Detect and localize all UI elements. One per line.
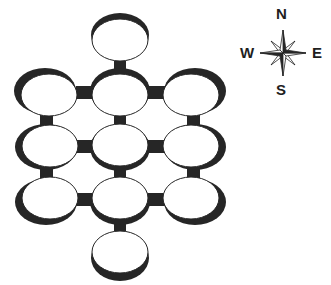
ring-grid-diagram — [0, 0, 331, 285]
rings — [14, 13, 226, 281]
ring-south — [91, 231, 149, 281]
ring-row2-col2 — [90, 124, 150, 171]
ring-row2-col1 — [15, 124, 78, 170]
compass-north-label: N — [276, 6, 287, 21]
ring-row1-col2 — [90, 68, 150, 116]
ring-row3-col3 — [163, 177, 226, 225]
ring-row3-col1 — [15, 177, 78, 225]
compass-south-label: S — [276, 82, 286, 97]
ring-north — [91, 13, 149, 61]
compass-west-label: W — [240, 45, 254, 60]
ring-row2-col3 — [163, 124, 226, 170]
ring-row1-col1 — [14, 68, 77, 116]
compass-east-label: E — [312, 45, 322, 60]
ring-row1-col3 — [163, 68, 226, 116]
compass-rose-icon — [260, 30, 306, 76]
ring-row3-col2 — [90, 177, 150, 225]
